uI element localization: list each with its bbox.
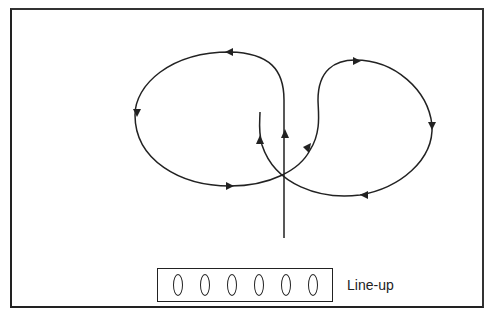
lineup-label: Line-up	[347, 277, 394, 293]
lineup-box	[157, 268, 333, 302]
player-marker	[281, 274, 291, 296]
player-marker	[308, 274, 318, 296]
arrow-left-top-icon	[225, 48, 233, 56]
player-marker	[200, 274, 210, 296]
arrow-right-top-icon	[353, 57, 361, 65]
left-loop-path	[135, 52, 310, 238]
arrow-center-icon	[281, 129, 289, 138]
arrow-left-bottom-icon	[226, 182, 234, 190]
player-marker	[227, 274, 237, 296]
arrow-inner-up-icon	[256, 135, 264, 144]
player-marker	[173, 274, 183, 296]
player-marker	[254, 274, 264, 296]
arrow-right-side-icon	[428, 122, 436, 130]
right-loop-path	[260, 60, 433, 196]
arrow-left-side-icon	[133, 109, 141, 117]
arrow-right-bottom-icon	[360, 191, 368, 199]
